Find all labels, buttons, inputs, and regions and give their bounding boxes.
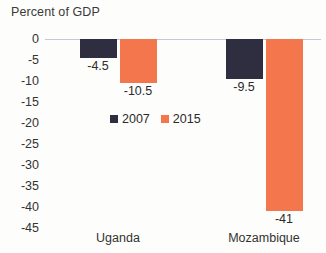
y-axis-tick-5: -25 xyxy=(21,138,39,150)
bar-mozambique-2007 xyxy=(226,39,263,79)
y-axis-tick-0: 0 xyxy=(32,33,39,45)
bar-uganda-2007 xyxy=(80,39,117,58)
category-label-uganda: Uganda xyxy=(58,231,178,245)
legend-swatch-icon-2015 xyxy=(161,115,169,123)
bar-uganda-2015 xyxy=(120,39,157,83)
y-axis-tick-9: -45 xyxy=(21,222,39,234)
bar-value-label-uganda-2015: -10.5 xyxy=(112,85,165,98)
plot-area: -4.5 -10.5 -9.5 -41 xyxy=(45,39,321,228)
y-axis: 0 -5 -10 -15 -20 -25 -30 -35 -40 -45 xyxy=(0,0,45,253)
gdp-deficit-bar-chart: Percent of GDP 0 -5 -10 -15 -20 -25 -30 … xyxy=(0,0,326,253)
bar-value-label-mozambique-2015: -41 xyxy=(258,213,311,226)
y-axis-tick-7: -35 xyxy=(21,180,39,192)
legend-swatch-icon-2007 xyxy=(110,115,118,123)
legend-label-2007: 2007 xyxy=(122,113,150,125)
y-axis-tick-8: -40 xyxy=(21,201,39,213)
y-axis-tick-6: -30 xyxy=(21,159,39,171)
bar-value-label-mozambique-2007: -9.5 xyxy=(218,81,271,94)
legend-label-2015: 2015 xyxy=(173,113,201,125)
category-label-mozambique: Mozambique xyxy=(204,231,324,245)
bar-mozambique-2015 xyxy=(266,39,303,211)
y-axis-tick-2: -10 xyxy=(21,75,39,87)
bar-value-label-uganda-2007: -4.5 xyxy=(72,60,125,73)
y-axis-tick-4: -20 xyxy=(21,117,39,129)
legend-item-2015: 2015 xyxy=(161,113,201,125)
legend-item-2007: 2007 xyxy=(110,113,150,125)
chart-legend: 2007 2015 xyxy=(110,113,201,125)
y-axis-tick-3: -15 xyxy=(21,96,39,108)
y-axis-tick-1: -5 xyxy=(28,54,39,66)
